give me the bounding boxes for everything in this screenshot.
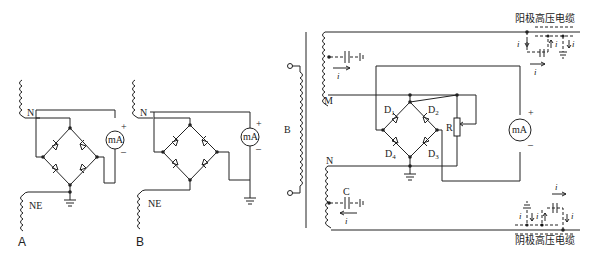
diode-icon (392, 113, 429, 146)
arrow-left-icon (460, 122, 466, 126)
svg-text:i: i (337, 71, 340, 81)
arrow-right-icon (552, 192, 566, 196)
ground-icon (64, 192, 76, 206)
capacitor-icon (345, 51, 363, 63)
anode-cable-label: 阳极高压电缆 (515, 12, 575, 24)
secondary-coil-n-icon (326, 166, 332, 228)
cathode-cable-label: 阴极高压电缆 (515, 234, 575, 246)
diode-d2-label: D2 (428, 104, 439, 117)
diode-d3-label: D3 (428, 148, 439, 161)
svg-text:mA: mA (512, 124, 528, 135)
arrow-right-icon (333, 66, 350, 70)
diode-bridge (43, 128, 97, 185)
svg-text:–: – (120, 146, 127, 157)
arrow-left-icon (340, 211, 357, 215)
diode-icon (172, 136, 208, 168)
terminal-icon (288, 64, 293, 69)
coil-bottom-label: NE (29, 200, 42, 211)
svg-text:i: i (572, 39, 575, 49)
ground-icon (404, 166, 416, 180)
capacitor-icon (540, 49, 544, 57)
coil-top-label: N (27, 107, 34, 118)
secondary-top-label: M (324, 95, 333, 106)
panel-c: B M i D1 D2 D3 D4 R (284, 12, 580, 246)
svg-text:i: i (536, 211, 539, 221)
panel-b: N mA + – NE B (133, 80, 263, 249)
svg-text:mA: mA (243, 131, 259, 142)
svg-text:i: i (519, 211, 522, 221)
svg-text:–: – (527, 139, 534, 150)
circuit-diagram: N mA + – NE A N (0, 0, 589, 260)
svg-text:N: N (140, 107, 147, 118)
ground-icon (559, 52, 567, 58)
panel-caption-a: A (18, 235, 26, 249)
terminal-icon (288, 191, 293, 196)
svg-text:+: + (121, 121, 127, 132)
arrow-down-icon (525, 40, 529, 47)
svg-text:i: i (555, 39, 558, 49)
primary-coil-icon (292, 66, 303, 193)
svg-text:i: i (571, 211, 574, 221)
meter-label: mA (108, 134, 124, 145)
variable-resistor (454, 118, 460, 136)
resistor-label: R (446, 122, 453, 133)
arrow-up-icon (543, 213, 547, 221)
coil-ne-icon (21, 195, 24, 231)
capacitor-label: C (343, 186, 350, 197)
secondary-bottom-label: N (326, 155, 333, 166)
svg-text:i: i (517, 39, 520, 49)
diode-icon (52, 140, 86, 173)
svg-text:i: i (345, 216, 348, 226)
arrow-up-icon (549, 40, 553, 48)
svg-text:i: i (555, 182, 558, 192)
coil-ne-icon (138, 193, 141, 229)
arrow-down-icon (565, 214, 569, 222)
arrow-down-icon (530, 213, 534, 221)
svg-text:i: i (534, 67, 537, 77)
primary-label: B (284, 124, 291, 135)
svg-text:+: + (256, 118, 262, 129)
diode-d1-label: D1 (384, 104, 395, 117)
panel-caption-b: B (136, 235, 144, 249)
capacitor-icon (345, 197, 363, 209)
arrow-right-icon (530, 62, 545, 66)
arrow-down-icon (567, 40, 571, 48)
svg-text:–: – (255, 143, 262, 154)
svg-text:NE: NE (148, 198, 161, 209)
ground-icon (523, 202, 531, 208)
panel-a: N mA + – NE A (18, 80, 127, 249)
ground-icon (244, 198, 256, 204)
diode-d4-label: D4 (385, 148, 396, 161)
svg-text:+: + (528, 107, 534, 118)
diode-bridge (163, 125, 217, 180)
